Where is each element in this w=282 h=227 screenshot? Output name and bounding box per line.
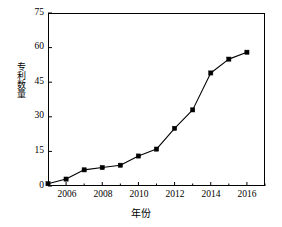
line-chart: 专利数量 年份 0 15 30 45 60 75 2006 2008 2010 … [0, 0, 282, 227]
y-axis-ticks [48, 13, 52, 186]
series-line-patent-count [48, 52, 247, 183]
chart-svg [0, 0, 282, 227]
series-markers-patent-count [46, 50, 249, 186]
x-axis-ticks [48, 182, 265, 186]
